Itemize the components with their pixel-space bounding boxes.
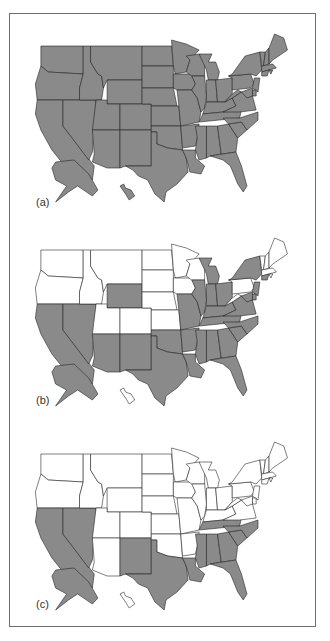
- state-ms: [195, 126, 206, 160]
- state-pa: [229, 278, 255, 294]
- state-ne: [142, 496, 177, 514]
- state-wa: [41, 46, 83, 74]
- state-sd: [142, 270, 173, 292]
- state-ny: [229, 460, 262, 484]
- state-me: [269, 442, 287, 472]
- state-ks: [151, 310, 180, 330]
- state-ms: [195, 534, 206, 568]
- state-wy: [107, 488, 142, 512]
- state-pa: [229, 482, 255, 498]
- state-pa: [229, 74, 255, 90]
- state-co: [120, 512, 151, 538]
- state-sd: [142, 66, 173, 88]
- state-wy: [107, 80, 142, 104]
- state-co: [120, 308, 151, 334]
- us-map-a: [32, 26, 292, 206]
- state-wa: [41, 454, 83, 482]
- state-ri: [269, 274, 273, 278]
- state-ri: [269, 70, 273, 74]
- state-ut: [92, 508, 120, 538]
- state-wa: [41, 250, 83, 278]
- state-az: [92, 334, 120, 372]
- state-ut: [92, 100, 120, 130]
- state-ks: [151, 106, 180, 126]
- state-nd: [142, 46, 173, 66]
- state-nm: [120, 334, 151, 372]
- state-ny: [229, 256, 262, 280]
- state-nd: [142, 454, 173, 474]
- state-me: [269, 238, 287, 268]
- us-map-c: [32, 434, 292, 614]
- state-ne: [142, 292, 177, 310]
- state-hi: [120, 184, 135, 200]
- state-me: [269, 34, 287, 64]
- state-nd: [142, 250, 173, 270]
- panel-label-c: (c): [36, 598, 49, 610]
- us-map-b: [32, 230, 292, 410]
- state-fl: [210, 356, 247, 396]
- state-fl: [210, 152, 247, 192]
- state-de: [252, 294, 256, 300]
- state-de: [252, 498, 256, 504]
- map-panel-a: (a): [10, 14, 315, 218]
- state-fl: [210, 560, 247, 600]
- panel-label-b: (b): [36, 394, 49, 406]
- state-ri: [269, 478, 273, 482]
- state-nm: [120, 538, 151, 576]
- state-co: [120, 104, 151, 130]
- state-hi: [120, 388, 135, 404]
- state-ut: [92, 304, 120, 334]
- panel-label-a: (a): [36, 196, 49, 208]
- state-ks: [151, 514, 180, 534]
- state-nm: [120, 130, 151, 168]
- map-panel-b: (b): [10, 218, 315, 422]
- figure-frame: (a) (b) (c): [9, 13, 316, 627]
- map-panel-c: (c): [10, 422, 315, 626]
- state-az: [92, 538, 120, 576]
- state-sd: [142, 474, 173, 496]
- state-wy: [107, 284, 142, 308]
- state-az: [92, 130, 120, 168]
- state-ms: [195, 330, 206, 364]
- state-ne: [142, 88, 177, 106]
- state-ny: [229, 52, 262, 76]
- state-de: [252, 90, 256, 96]
- state-hi: [120, 592, 135, 608]
